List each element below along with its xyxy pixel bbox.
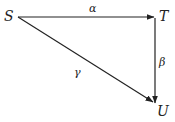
node-s-label: S bbox=[4, 8, 14, 24]
edge-s-u-arrow bbox=[18, 17, 153, 102]
diagram-canvas: S T U α β γ bbox=[0, 0, 175, 122]
edge-beta-label: β bbox=[158, 56, 165, 69]
node-t-label: T bbox=[159, 8, 170, 24]
edge-alpha-label: α bbox=[89, 2, 97, 15]
node-u-label: U bbox=[157, 103, 170, 119]
edge-gamma-label: γ bbox=[74, 66, 81, 79]
